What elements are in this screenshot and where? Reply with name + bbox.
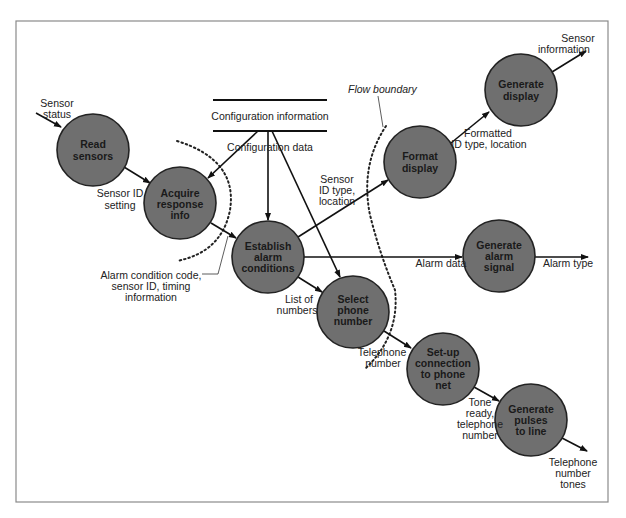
process-label-line: display [402,162,438,174]
label-alarm-condition-code: Alarm condition code, sensor ID, timing … [101,269,202,303]
process-acquire-response-info: Acquire response info [144,167,216,239]
data-store-label: Configuration information [211,110,328,122]
data-flow-diagram: Configuration information Flow boundary … [0,0,626,518]
flow-boundary-leader [378,96,383,127]
process-label-line: Read [80,138,106,150]
flow-label-line: information [538,43,590,55]
flow-label-line: information [125,291,177,303]
flow-acquire-to-establish [211,223,236,238]
label-telephone-number-tones: Telephone number tones [549,456,598,490]
label-alarm-type: Alarm type [543,257,593,269]
flow-label-line: status [43,108,71,120]
label-alarm-data: Alarm data [416,257,467,269]
label-sensor-information: Sensor information [538,32,595,55]
flow-label-line: number [365,357,401,369]
process-generate-display: Generate display [485,54,557,126]
process-generate-alarm-signal: Generate alarm signal [463,220,535,292]
data-store-configuration-information: Configuration information [211,100,328,131]
process-label-line: number [334,315,373,327]
process-label-line: info [170,209,189,221]
label-list-of-numbers: List of numbers [277,293,318,316]
flow-label-line: setting [105,199,136,211]
flow-label-line: Sensor ID [97,187,144,199]
process-label-line: Generate [498,78,544,90]
label-configuration-data: Configuration data [227,141,313,153]
process-label-line: signal [484,261,514,273]
label-telephone-number: Telephone number [358,346,407,369]
process-read-sensors: Read sensors [57,114,129,186]
process-label-line: sensors [73,150,113,162]
process-setup-connection: Set-up connection to phone net [407,333,479,405]
flow-label-line: tones [560,478,586,490]
flow-sensor-id-setting [124,167,150,183]
flow-label-line: location [319,195,355,207]
label-tone-ready: Tone ready, telephone number [457,396,503,441]
process-label-line: Format [402,150,438,162]
process-format-display: Format display [384,126,456,198]
flow-label-line: ID type, location [451,138,526,150]
flow-label-line: number [462,429,498,441]
process-label-line: display [503,90,539,102]
flow-list-of-numbers [298,277,322,292]
label-sensor-id-setting: Sensor ID setting [97,187,144,211]
process-establish-alarm-conditions: Establish alarm conditions [232,221,304,293]
label-sensor-status: Sensor status [40,97,74,120]
process-label-line: conditions [241,262,294,274]
label-formatted-id: Formatted ID type, location [451,127,526,150]
flow-boundary-label: Flow boundary [348,83,418,95]
flow-label-line: numbers [277,304,318,316]
process-generate-pulses: Generate pulses to line [495,384,567,456]
process-select-phone-number: Select phone number [317,276,389,348]
process-label-line: to line [516,425,547,437]
process-label-line: net [435,379,451,391]
flow-config-to-acquire [208,131,258,178]
label-sensor-id-type-location: Sensor ID type, location [319,173,355,207]
flow-telephone-number-tones [562,438,587,451]
